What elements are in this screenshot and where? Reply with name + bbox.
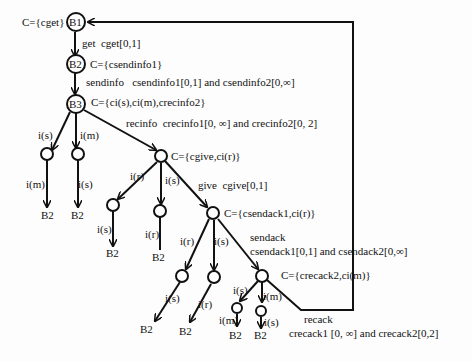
- terminal-b2: B2: [140, 323, 153, 335]
- edge-sendack-clock: csendack1[0,1] and csendack2[0,∞]: [250, 245, 408, 257]
- node-b3-label: B3: [69, 98, 82, 110]
- edge-sendinfo: sendinfo csendinfo1[0,1] and csendinfo2[…: [86, 76, 295, 88]
- input-label: i(r): [198, 298, 212, 310]
- input-label: i(s): [165, 292, 180, 304]
- input-label: i(r): [180, 235, 194, 247]
- terminal-b2: B2: [179, 325, 192, 337]
- constraint-b1: C={cget}: [22, 16, 64, 28]
- edge-get: get cget[0,1]: [82, 37, 140, 49]
- node-b2-label: B2: [69, 58, 82, 70]
- constraint-recack: C={crecack2,ci(m)}: [281, 269, 371, 281]
- state-diagram: B1 B2 B3 C={cget} C={csendinfo1} C={ci(s…: [0, 0, 472, 362]
- edge-recack-action: recack: [304, 313, 333, 325]
- input-label: i(m): [263, 290, 282, 302]
- input-label: i(m): [26, 178, 45, 190]
- constraint-b2: C={csendinfo1}: [90, 58, 162, 70]
- terminal-b2: B2: [71, 209, 84, 221]
- input-label: i(r): [130, 170, 144, 182]
- input-label: i(s): [78, 178, 93, 190]
- terminal-b2: B2: [106, 247, 119, 259]
- edge-sendack-action: sendack: [250, 231, 285, 243]
- input-label: i(s): [264, 316, 279, 328]
- input-label: i(m): [219, 314, 238, 326]
- input-label: i(s): [97, 223, 112, 235]
- constraint-b3: C={ci(s),ci(m),crecinfo2}: [91, 96, 206, 108]
- input-label: i(s): [165, 174, 180, 186]
- input-label: i(m): [80, 129, 99, 141]
- terminal-b2: B2: [254, 329, 267, 341]
- input-label: i(s): [233, 284, 248, 296]
- input-label: i(s): [214, 235, 229, 247]
- node-b1-label: B1: [69, 16, 82, 28]
- constraint-give: C={cgive,ci(r)}: [171, 150, 241, 162]
- input-label: i(r): [145, 228, 159, 240]
- input-label: i(s): [38, 129, 53, 141]
- terminal-b2: B2: [41, 209, 54, 221]
- terminal-b2: B2: [229, 329, 242, 341]
- constraint-sendack: C={csendack1,ci(r)}: [224, 207, 316, 219]
- edge-recack-clock: crecack1 [0, ∞] and crecack2[0,2]: [289, 327, 439, 339]
- edge-give: give cgive[0,1]: [198, 179, 267, 191]
- terminal-b2: B2: [152, 251, 165, 263]
- edge-recinfo: recinfo crecinfo1[0, ∞] and crecinfo2[0,…: [126, 117, 317, 129]
